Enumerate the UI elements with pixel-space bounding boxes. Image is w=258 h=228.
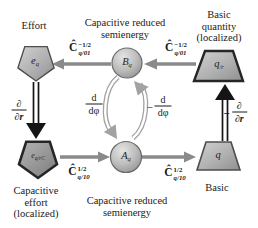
node-q-base: q: [215, 149, 220, 160]
bottom-semienergy-line1: Capacitive reduced: [87, 195, 168, 207]
fraction-numerator: d: [158, 95, 169, 106]
formal-graph-diagram: Effort Capacitive reduced semienergy Bas…: [0, 0, 258, 228]
operator-superscript: −1/2: [174, 41, 187, 49]
node-eqrc-sub: q/rC: [35, 155, 45, 161]
fraction-denominator: dφ: [86, 104, 103, 116]
fraction: ∂ ∂r: [12, 99, 27, 122]
operator-superscript: 1/2: [174, 166, 186, 174]
capacitive-effort-line2: effort: [14, 196, 59, 208]
capacitive-effort-caption: Capacitive effort (localized): [14, 185, 59, 220]
effort-caption: Effort: [22, 20, 47, 32]
arrowhead-down-icon: [26, 123, 46, 139]
operator-base: Ĉ: [69, 42, 77, 53]
fraction-denominator: ∂r: [232, 112, 247, 124]
arrowhead-left-icon: [144, 59, 157, 70]
fraction-denominator: ∂r: [12, 110, 27, 122]
node-label-effort: eq: [31, 55, 39, 67]
basic-quantity-line1: Basic: [197, 9, 242, 21]
arrowhead-up-icon: [215, 84, 235, 100]
node-label-basic-quantity-localized: q/r: [214, 58, 224, 70]
bottom-semienergy-caption: Capacitive reduced semienergy: [87, 195, 168, 218]
operator-c-q01-left: Ĉ −1/2 q/01: [69, 42, 91, 57]
operator-space-derivative: ∂ ∂r: [10, 99, 27, 122]
fraction-numerator: ∂: [14, 99, 25, 110]
fraction: ∂ ∂r: [232, 101, 247, 124]
fraction-denominator: dφ: [155, 106, 172, 118]
node-label-semienergy-a: Aq: [121, 150, 131, 162]
arrow-a-to-q: [142, 152, 196, 163]
basic-quantity-line2: quantity: [197, 20, 242, 32]
operator-space-derivative-negative: − ∂ ∂r: [223, 101, 247, 124]
operator-scripts: 1/2 q/10: [78, 165, 90, 181]
basic-quantity-line3: (localized): [197, 32, 242, 44]
arrow-localized-effort-to-a: [60, 152, 110, 163]
fraction-numerator: ∂: [234, 101, 245, 112]
operator-scripts: −1/2 q/01: [78, 41, 91, 57]
node-label-basic-quantity: q: [215, 149, 220, 161]
fraction: d dφ: [155, 95, 172, 118]
operator-c-q10-right: Ĉ 1/2 q/10: [164, 167, 185, 182]
operator-base: Ĉ: [164, 167, 172, 178]
phase-derivative-arrow-down: [104, 77, 118, 139]
node-effort-sub: q: [36, 60, 39, 67]
operator-subscript: q/01: [174, 49, 187, 57]
capacitive-effort-line1: Capacitive: [14, 185, 59, 197]
operator-superscript: 1/2: [78, 165, 90, 173]
operator-subscript: q/10: [78, 173, 90, 181]
operator-scripts: 1/2 q/10: [174, 166, 186, 182]
arrow-qr-to-b: [144, 59, 196, 70]
top-semienergy-caption: Capacitive reduced semienergy: [85, 17, 166, 40]
capacitive-effort-line3: (localized): [14, 208, 59, 220]
operator-subscript: q/01: [78, 49, 91, 57]
operator-sign: −: [147, 100, 153, 112]
basic-quantity-caption: Basic quantity (localized): [197, 9, 242, 44]
bottom-semienergy-line2: semienergy: [87, 206, 168, 218]
node-qr-sub: /r: [219, 63, 223, 70]
operator-superscript: −1/2: [78, 41, 91, 49]
operator-base: Ĉ: [68, 166, 76, 177]
operator-phase-derivative: d dφ: [84, 93, 103, 116]
node-label-capacitive-effort-localized: eq/rC: [31, 151, 45, 161]
node-a-sub: q: [128, 155, 131, 162]
node-b-sub: q: [129, 61, 132, 68]
operator-c-q01-right: Ĉ −1/2 q/01: [165, 42, 187, 57]
arrowhead-right-icon: [184, 152, 196, 163]
arrowhead-right-icon: [98, 152, 110, 163]
fraction-numerator: d: [89, 93, 100, 104]
operator-subscript: q/10: [174, 174, 186, 182]
basic-caption: Basic: [205, 182, 228, 194]
operator-scripts: −1/2 q/01: [174, 41, 187, 57]
operator-base: Ĉ: [165, 42, 173, 53]
arrow-b-to-effort: [52, 59, 111, 70]
top-semienergy-line2: semienergy: [85, 28, 166, 40]
node-label-semienergy-b: Bq: [122, 56, 132, 68]
fraction: d dφ: [86, 93, 103, 116]
operator-phase-derivative-negative: − d dφ: [147, 95, 172, 118]
operator-sign: −: [223, 106, 230, 118]
top-semienergy-line1: Capacitive reduced: [85, 17, 166, 29]
operator-c-q10-left: Ĉ 1/2 q/10: [68, 166, 89, 181]
space-derivative-arrow-down: [26, 82, 46, 139]
